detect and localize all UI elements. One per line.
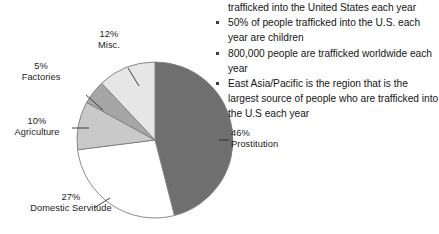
pie-label-misc: 12% Misc.: [83, 29, 135, 52]
pie-label-misc-category: Misc.: [83, 40, 135, 51]
pie-label-prostitution-percent: 46%: [231, 128, 303, 139]
bullet-item: 800,000 people are trafficked worldwide …: [214, 46, 439, 76]
bullet-marker-icon: [216, 52, 219, 55]
pie-label-factories: 5% Factories: [8, 61, 74, 84]
bullet-item: East Asia/Pacific is the region that is …: [214, 76, 439, 122]
pie-label-domestic-servitude: 27% Domestic Servitude: [12, 192, 130, 215]
pie-label-prostitution-category: Prostitution: [231, 139, 303, 150]
bullet-marker-icon: [216, 82, 219, 85]
bullet-item-text: East Asia/Pacific is the region that is …: [228, 78, 438, 119]
bullet-item-text: 50% of people trafficked into the U.S. e…: [228, 17, 420, 43]
pie-label-domestic-servitude-category: Domestic Servitude: [12, 203, 130, 214]
pie-label-agriculture: 10% Agriculture: [0, 116, 74, 139]
pie-chart: 12% Misc. 5% Factories 10% Agriculture 2…: [0, 0, 240, 234]
continuation-line: trafficked into the United States each y…: [214, 0, 439, 15]
bullet-item: 50% of people trafficked into the U.S. e…: [214, 15, 439, 45]
pie-label-agriculture-percent: 10%: [0, 116, 74, 127]
slide-canvas: 12% Misc. 5% Factories 10% Agriculture 2…: [0, 0, 439, 234]
bullet-text-block: trafficked into the United States each y…: [214, 0, 439, 122]
bullet-list: 50% of people trafficked into the U.S. e…: [214, 15, 439, 121]
bullet-marker-icon: [216, 21, 219, 24]
bullet-item-text: 800,000 people are trafficked worldwide …: [228, 48, 432, 74]
pie-label-agriculture-category: Agriculture: [0, 127, 74, 138]
pie-label-misc-percent: 12%: [83, 29, 135, 40]
pie-label-factories-percent: 5%: [8, 61, 74, 72]
pie-label-prostitution: 46% Prostitution: [231, 128, 303, 151]
pie-label-domestic-servitude-percent: 27%: [12, 192, 130, 203]
pie-label-factories-category: Factories: [8, 72, 74, 83]
